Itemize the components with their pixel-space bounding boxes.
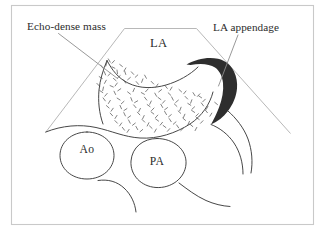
figure-root: Echo-dense mass LA appendage LA Ao PA xyxy=(0,0,326,236)
label-aorta: Ao xyxy=(80,143,95,156)
echocardiogram-diagram: Echo-dense mass LA appendage LA Ao PA xyxy=(0,0,326,236)
right-vessel-wall xyxy=(228,111,252,173)
mass-upper-contour xyxy=(107,61,198,88)
label-echo-dense-mass: Echo-dense mass xyxy=(27,20,106,32)
ultrasound-sector-outline xyxy=(46,29,291,134)
label-la-appendage: LA appendage xyxy=(213,21,279,33)
echo-dense-mass-speckles xyxy=(97,59,218,132)
appendage-outflow-contour xyxy=(211,125,243,175)
lower-left-contour xyxy=(98,180,136,212)
leader-line-echo-dense-mass xyxy=(59,34,118,79)
label-la-chamber: LA xyxy=(150,36,167,50)
la-appendage-wall xyxy=(187,58,238,125)
lower-right-contour xyxy=(179,183,230,207)
label-pulmonary-artery: PA xyxy=(150,155,165,168)
